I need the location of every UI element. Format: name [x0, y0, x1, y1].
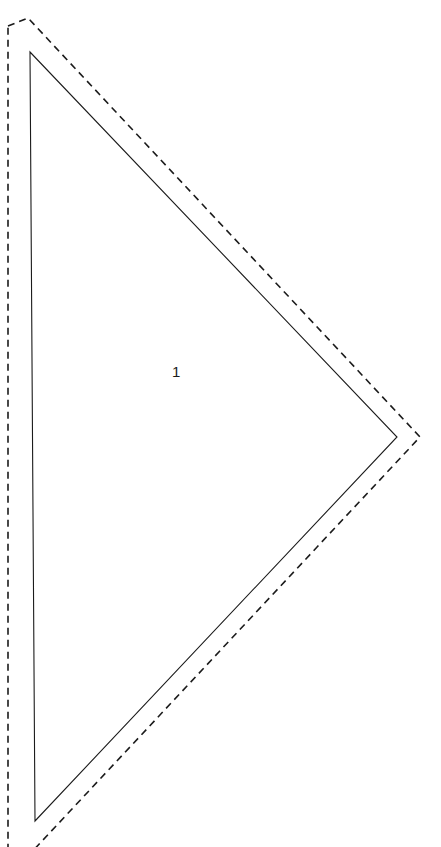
pattern-template-diagram	[0, 0, 441, 847]
quilt-pattern-page: e One Quilt 1	[0, 0, 441, 847]
pattern-piece-number: 1	[172, 363, 180, 381]
